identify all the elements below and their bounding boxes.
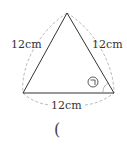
left-side-label: 12cm bbox=[11, 38, 42, 51]
angle-arc bbox=[103, 83, 108, 93]
triangle-diagram bbox=[0, 0, 127, 145]
right-side-label: 12cm bbox=[92, 38, 123, 51]
bottom-side-label: 12cm bbox=[51, 99, 82, 112]
bottom-side-dashed-arc-left bbox=[23, 93, 50, 105]
answer-paren: ( bbox=[54, 120, 60, 139]
triangle bbox=[23, 13, 114, 93]
angle-marker-circle bbox=[88, 77, 98, 87]
angle-marker-glyph bbox=[91, 80, 96, 85]
bottom-side-dashed-arc-right bbox=[85, 93, 114, 105]
